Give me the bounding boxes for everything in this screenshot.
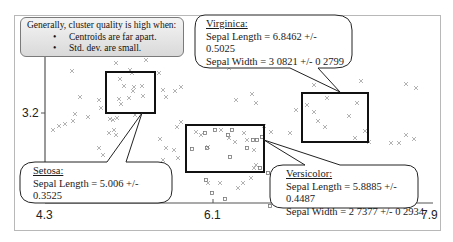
data-point	[179, 120, 183, 124]
data-point	[132, 85, 136, 89]
versicolor-callout-text: Versicolor: Sepal Length = 5.8885 +/- 0.…	[286, 168, 424, 218]
data-point	[108, 117, 112, 121]
data-point	[242, 131, 246, 135]
data-point	[101, 153, 105, 157]
points-square	[191, 129, 272, 208]
data-point	[218, 181, 222, 185]
data-point-square	[246, 147, 249, 150]
data-point	[359, 79, 363, 83]
data-point	[323, 125, 327, 129]
data-point	[118, 77, 122, 81]
note-bullet: • Centroids are far apart.	[27, 32, 177, 44]
data-point	[164, 146, 168, 150]
data-point	[412, 137, 416, 141]
data-point	[347, 114, 351, 118]
setosa-callout-text: Setosa: Sepal Length = 5.006 +/- 0.3525	[33, 165, 138, 203]
data-point	[206, 145, 210, 149]
data-point	[294, 108, 298, 112]
data-point	[97, 98, 101, 102]
data-point	[397, 141, 401, 145]
data-point	[57, 124, 61, 128]
x-tick-label: 4.3	[36, 209, 53, 221]
bullet-icon: •	[53, 43, 69, 55]
data-point-square	[259, 167, 262, 170]
data-point-square	[267, 172, 270, 175]
data-point	[316, 119, 320, 123]
data-point	[389, 141, 393, 145]
data-point	[78, 95, 82, 99]
data-point	[241, 181, 245, 185]
data-point	[199, 133, 203, 137]
data-point	[288, 131, 292, 135]
data-point	[236, 186, 240, 190]
data-point	[173, 89, 177, 93]
data-point	[119, 102, 123, 106]
data-point	[249, 176, 253, 180]
data-point	[325, 96, 329, 100]
setosa-cluster-box	[106, 72, 155, 113]
virginica-cluster-box	[302, 93, 368, 142]
data-point	[194, 130, 198, 134]
data-point	[219, 128, 223, 132]
data-point	[233, 140, 237, 144]
x-tick-label: 6.1	[204, 209, 221, 221]
data-point	[363, 129, 367, 133]
virginica-callout-text: Virginica: Sepal Length = 6.8462 +/- 0.5…	[206, 18, 344, 68]
data-point	[161, 88, 165, 92]
note-bullet: • Std. dev. are small.	[27, 43, 177, 55]
data-point	[161, 158, 165, 162]
data-point	[353, 136, 357, 140]
data-point	[164, 95, 168, 99]
note-heading: Generally, cluster quality is high when:	[27, 20, 177, 32]
data-point-square	[231, 129, 234, 132]
data-point	[122, 84, 126, 88]
data-point-square	[204, 132, 207, 135]
data-point-square	[252, 139, 255, 142]
data-point	[86, 115, 90, 119]
data-point	[179, 85, 183, 89]
data-point	[141, 94, 145, 98]
data-point-square	[191, 148, 194, 151]
data-point	[250, 92, 254, 96]
data-point	[70, 69, 74, 73]
data-point-square	[256, 139, 259, 142]
data-point	[234, 98, 238, 102]
data-point	[172, 148, 176, 152]
data-point	[73, 112, 77, 116]
data-point	[114, 133, 118, 137]
data-point	[157, 71, 161, 75]
data-point-square	[211, 192, 214, 195]
data-point-square	[269, 205, 272, 208]
data-point	[252, 148, 256, 152]
x-tick-label: 7.9	[421, 209, 438, 221]
data-point	[107, 131, 111, 135]
data-point	[111, 118, 115, 122]
data-point	[144, 58, 148, 62]
data-point	[115, 116, 119, 120]
data-point	[176, 156, 180, 160]
data-point	[51, 128, 55, 132]
data-point	[131, 89, 135, 93]
data-point	[404, 133, 408, 137]
data-point-square	[214, 129, 217, 132]
data-point	[312, 110, 316, 114]
data-point	[414, 86, 418, 90]
data-point	[97, 146, 101, 150]
data-point	[71, 119, 75, 123]
cluster-quality-note: Generally, cluster quality is high when:…	[20, 17, 184, 57]
data-point	[158, 137, 162, 141]
data-point	[140, 84, 144, 88]
data-point	[63, 122, 67, 126]
data-point	[254, 101, 258, 105]
data-point-square	[229, 156, 232, 159]
data-point	[404, 82, 408, 86]
y-tick-label: 3.2	[22, 107, 39, 119]
data-point	[112, 128, 116, 132]
bullet-icon: •	[53, 32, 69, 44]
data-point	[355, 101, 359, 105]
data-point	[175, 125, 179, 129]
data-point	[127, 96, 131, 100]
data-point	[117, 97, 121, 101]
data-point	[99, 106, 103, 110]
data-point	[245, 138, 249, 142]
